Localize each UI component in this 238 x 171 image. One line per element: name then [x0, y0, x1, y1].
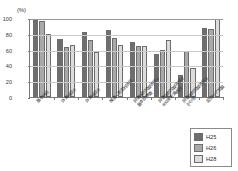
bar	[106, 30, 111, 97]
y-axis-tick-mark	[28, 66, 30, 67]
bar	[160, 50, 165, 97]
bar-chart: (%) 020406080100 基本項目外来項目①外来項目②検査・測定料項目評…	[0, 0, 238, 171]
legend-label: H25	[206, 134, 216, 140]
legend-item: H26	[194, 143, 231, 154]
legend-item: H28	[194, 154, 231, 165]
y-axis-tick-label: 60	[0, 48, 12, 54]
bar	[82, 32, 87, 97]
gridline	[30, 35, 223, 36]
bar	[184, 51, 189, 97]
y-axis-tick-label: 100	[0, 16, 12, 22]
bar-group	[30, 19, 54, 97]
bar	[88, 40, 93, 97]
legend-swatch-icon	[194, 155, 203, 163]
gridline	[30, 51, 223, 52]
legend-item: H25	[194, 132, 231, 143]
y-axis-tick-mark	[28, 82, 30, 83]
y-axis-tick-mark	[28, 35, 30, 36]
x-axis-tick-mark	[223, 97, 224, 100]
gridline	[30, 19, 223, 20]
legend-label: H26	[206, 145, 216, 151]
bar	[39, 21, 44, 97]
legend-label: H28	[206, 156, 216, 162]
y-axis-tick-label: 20	[0, 79, 12, 85]
bar	[33, 20, 38, 97]
legend-swatch-icon	[194, 133, 203, 141]
bar	[64, 47, 69, 97]
y-axis-unit-label: (%)	[17, 7, 26, 13]
y-axis-tick-label: 0	[0, 95, 12, 101]
y-axis-tick-label: 80	[0, 32, 12, 38]
y-axis-tick-mark	[28, 19, 30, 20]
y-axis-tick-mark	[28, 51, 30, 52]
legend-swatch-icon	[194, 144, 203, 152]
gridline	[30, 66, 223, 67]
y-axis-tick-label: 40	[0, 63, 12, 69]
bar	[57, 39, 62, 97]
bar	[136, 46, 141, 97]
bar-group	[78, 19, 102, 97]
bar-group	[54, 19, 78, 97]
chart-legend: H25 H26 H28	[190, 128, 232, 167]
